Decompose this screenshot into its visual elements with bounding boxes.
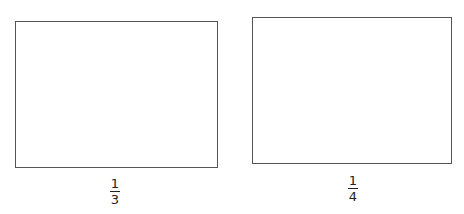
rectangle-left [15,21,218,168]
fraction-label-left: 1 3 [110,177,120,206]
fraction-label-right: 1 4 [348,174,358,203]
numerator: 1 [349,174,357,187]
denominator: 4 [349,190,357,203]
rectangle-right [252,17,452,164]
denominator: 3 [111,193,119,206]
numerator: 1 [111,177,119,190]
